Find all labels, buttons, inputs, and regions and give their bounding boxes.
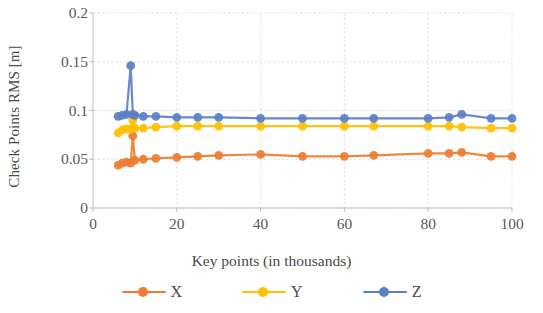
legend-marker-z-icon bbox=[363, 287, 407, 298]
legend-label: Y bbox=[291, 283, 303, 301]
legend-item-x[interactable]: X bbox=[122, 283, 183, 301]
legend-marker-y-icon bbox=[242, 287, 286, 298]
legend-dot bbox=[258, 287, 268, 297]
chart-legend: XYZ bbox=[0, 283, 543, 301]
x-axis-title: Key points (in thousands) bbox=[0, 252, 543, 270]
legend-label: Z bbox=[412, 283, 422, 301]
x-tick-label: 20 bbox=[147, 216, 207, 232]
x-tick-label: 60 bbox=[314, 216, 374, 232]
legend-dot bbox=[379, 287, 389, 297]
legend-label: X bbox=[171, 283, 183, 301]
x-tick-label: 80 bbox=[398, 216, 458, 232]
legend-marker-x-icon bbox=[122, 287, 166, 298]
x-tick-label: 100 bbox=[482, 216, 542, 232]
x-tick-label: 40 bbox=[231, 216, 291, 232]
x-tick-label: 0 bbox=[63, 216, 123, 232]
legend-dot bbox=[138, 287, 148, 297]
chart-container: Check Points RMS [m] 00.050.10.150.2 020… bbox=[0, 0, 543, 313]
legend-item-z[interactable]: Z bbox=[363, 283, 422, 301]
legend-item-y[interactable]: Y bbox=[242, 283, 303, 301]
